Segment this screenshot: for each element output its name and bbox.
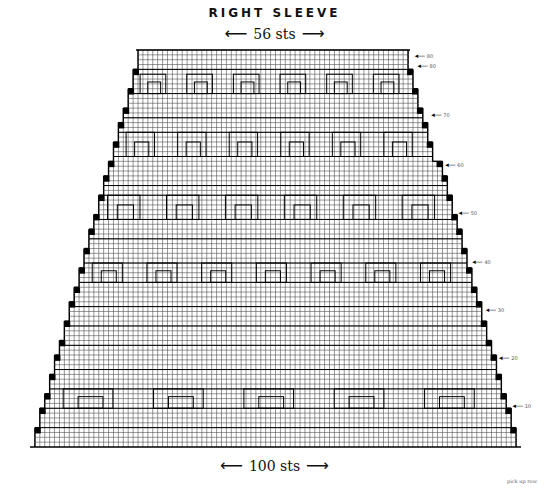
arrow-left-icon: ◂—	[499, 354, 510, 362]
row-marker-60: ◂— 60	[445, 161, 463, 169]
row-marker-80: ◂— 80	[417, 62, 435, 70]
bottom-width-label: ⟵100 sts⟶	[0, 456, 549, 475]
row-marker-80: ◂— 80	[415, 52, 433, 60]
row-marker-30: ◂— 30	[486, 306, 504, 314]
arrow-left-icon: ◂—	[431, 111, 442, 119]
arrow-left-icon: ◂—	[513, 402, 524, 410]
arrow-left-icon: ◂—	[472, 258, 483, 266]
arrow-left-icon: ◂—	[417, 62, 428, 70]
arrow-left-icon: ◂—	[459, 209, 470, 217]
row-marker-50: ◂— 50	[459, 209, 477, 217]
arrow-left-icon: ⟵	[220, 456, 243, 475]
pick-up-row-label: pick up row	[507, 478, 537, 484]
arrow-left-icon: ◂—	[415, 52, 426, 60]
arrow-right-icon: ⟶	[306, 456, 329, 475]
arrow-left-icon: ◂—	[486, 306, 497, 314]
row-marker-40: ◂— 40	[472, 258, 490, 266]
row-marker-10: ◂— 10	[513, 402, 531, 410]
arrow-left-icon: ◂—	[445, 161, 456, 169]
row-marker-20: ◂— 20	[499, 354, 517, 362]
row-marker-70: ◂— 70	[431, 111, 449, 119]
knitting-chart-grid	[0, 0, 549, 491]
